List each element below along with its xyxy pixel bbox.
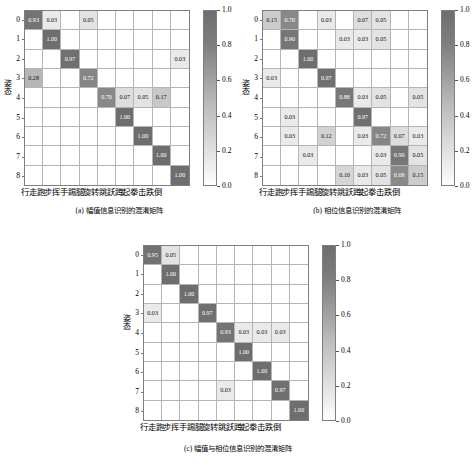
heatmap-cell: 0.72 [80,69,98,88]
heatmap-cell [299,127,317,146]
panel-caption-a: (a) 幅值信息识别的混淆矩阵 [0,207,238,214]
heatmap-cell [290,285,308,304]
heatmap-cell: 0.03 [144,304,162,323]
heatmap-cell [336,69,354,88]
heatmap-cell [43,69,61,88]
colorbar-tick-mark [455,45,458,46]
heatmap-cell [235,265,253,284]
heatmap-cell: 0.15 [263,11,281,30]
heatmap-cell: 0.90 [391,146,409,165]
heatmap-cell [134,11,152,30]
colorbar-tick-mark [336,315,339,316]
heatmap-cell [162,401,180,420]
colorbar-tick-mark [336,386,339,387]
panel-caption-c: (c) 幅值与相位信息识别的混淆矩阵 [119,445,357,452]
y-axis-tick: 7 [129,388,139,396]
heatmap-cell [153,69,171,88]
y-axis-tick: 8 [10,172,20,180]
colorbar-tick-mark [217,186,220,187]
heatmap-cell: 1.00 [162,265,180,284]
heatmap-cell [253,246,271,265]
heatmap-cell [272,401,290,420]
heatmap-cell [144,323,162,342]
heatmap-cell: 0.03 [372,146,390,165]
heatmap-cell [43,127,61,146]
heatmap-cell: 0.03 [409,127,427,146]
heatmap-cell [153,11,171,30]
heatmap-cell [153,127,171,146]
colorbar-tick-mark [455,186,458,187]
heatmap-cell [253,343,271,362]
heatmap-cell: 0.72 [372,127,390,146]
heatmap-cell [180,304,198,323]
heatmap-cell [25,108,43,127]
heatmap-cell [217,304,235,323]
heatmap-cell [134,69,152,88]
colorbar-tick-mark [336,421,339,422]
heatmap-cell: 0.03 [171,50,189,69]
heatmap-cell [253,265,271,284]
heatmap-cell: 0.03 [217,381,235,400]
y-axis-tick: 8 [248,172,258,180]
heatmap-cell [272,246,290,265]
y-axis-tick: 0 [248,16,258,24]
heatmap-cell [144,343,162,362]
heatmap-cell [336,146,354,165]
y-axis-tick: 7 [10,153,20,161]
heatmap-cell [162,304,180,323]
heatmap-cell [134,108,152,127]
heatmap-cell [180,246,198,265]
heatmap-cell [144,362,162,381]
heatmap-cell [144,381,162,400]
colorbar-tick-mark [217,116,220,117]
heatmap-cell [171,146,189,165]
heatmap-cell [116,69,134,88]
heatmap-cell [391,69,409,88]
heatmap-cell [199,265,217,284]
heatmap-cell [116,127,134,146]
heatmap-grid-c: 0.950.051.001.000.030.970.930.030.030.03… [143,245,309,421]
heatmap-cell [263,30,281,49]
heatmap-cell [372,108,390,127]
heatmap-cell [263,146,281,165]
heatmap-cell [98,127,116,146]
y-axis-tick: 2 [129,290,139,298]
colorbar-tick: 0.8 [222,41,231,49]
heatmap-cell [25,30,43,49]
heatmap-cell [162,381,180,400]
heatmap-cell [199,343,217,362]
heatmap-cell [290,362,308,381]
heatmap-cell: 0.05 [162,246,180,265]
heatmap-cell [180,265,198,284]
heatmap-cell [217,246,235,265]
colorbar-tick: 0.0 [222,182,231,190]
heatmap-cell [153,30,171,49]
heatmap-cell: 0.93 [25,11,43,30]
heatmap-cell [43,88,61,107]
colorbar-tick: 0.2 [341,382,350,390]
heatmap-cell [318,50,336,69]
heatmap-cell [290,343,308,362]
heatmap-cell: 0.03 [43,11,61,30]
heatmap-cell [253,285,271,304]
heatmap-cell [116,146,134,165]
heatmap-cell: 0.07 [116,88,134,107]
y-axis-tick: 0 [129,251,139,259]
heatmap-cell [153,166,171,185]
heatmap-cell: 1.00 [153,146,171,165]
heatmap-cell [25,50,43,69]
heatmap-cell: 0.97 [272,381,290,400]
heatmap-cell [171,127,189,146]
heatmap-cell [281,88,299,107]
heatmap-cell [372,69,390,88]
colorbar-tick: 0.4 [222,112,231,120]
y-axis-label-a: 姿态 [2,79,10,95]
heatmap-cell [409,108,427,127]
heatmap-cell [299,30,317,49]
colorbar-tick: 0.0 [341,417,350,425]
heatmap-cell: 0.05 [409,88,427,107]
heatmap-cell: 0.03 [354,127,372,146]
heatmap-cell [409,69,427,88]
heatmap-cell [80,108,98,127]
heatmap-cell [199,401,217,420]
